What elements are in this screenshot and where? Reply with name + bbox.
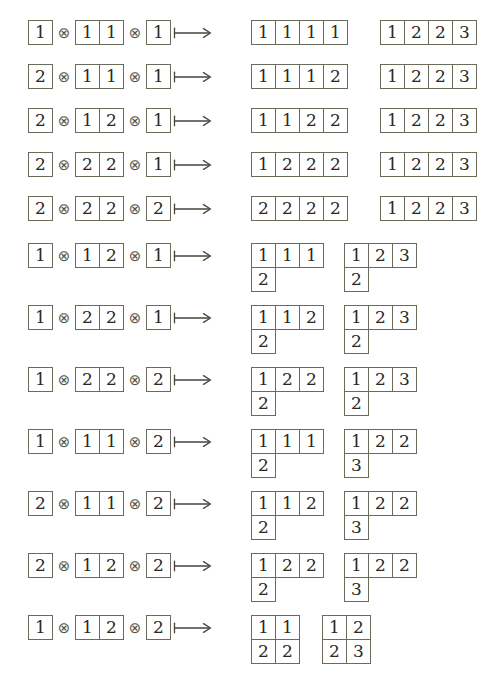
lhs-factor-1-row: 2 [28, 152, 53, 177]
rhs-tableau-1-cell: 1 [251, 429, 276, 454]
lhs-factor-1: 2 [28, 108, 53, 133]
tensor-operator-icon: ⊗ [124, 196, 146, 221]
lhs-factor-2-row: 12 [75, 553, 124, 578]
rhs-tableau-1: 1122 [251, 615, 300, 664]
rhs-tableau-1-cell: 2 [275, 196, 300, 221]
rhs-tableau-2: 1223 [380, 152, 477, 177]
rhs-tableau-1-cell: 2 [299, 367, 324, 392]
tensor-operator-icon: ⊗ [53, 367, 75, 392]
lhs-factor-2-row: 11 [75, 64, 124, 89]
lhs-tensor-expression: 1⊗11⊗1 [28, 20, 215, 45]
tensor-operator-icon: ⊗ [124, 367, 146, 392]
lhs-factor-1-cell: 2 [28, 491, 53, 516]
rhs-tableaux-pair: 11221223 [251, 615, 371, 664]
rhs-tableau-2-cell: 3 [344, 577, 369, 602]
tensor-operator-icon: ⊗ [53, 243, 75, 268]
rhs-tableau-1-cell: 2 [275, 553, 300, 578]
rhs-tableau-1-row: 2 [251, 577, 324, 602]
lhs-factor-1-cell: 2 [28, 553, 53, 578]
lhs-factor-2-cell: 2 [99, 108, 124, 133]
rhs-tableau-1-cell: 2 [323, 152, 348, 177]
rhs-tableau-2-row: 122 [344, 553, 417, 578]
rhs-tableau-1: 1112 [251, 429, 324, 478]
rhs-tableau-2: 1223 [344, 553, 417, 602]
rhs-tableau-2-cell: 3 [344, 515, 369, 540]
rhs-tableau-2-row: 1223 [380, 196, 477, 221]
lhs-factor-2: 12 [75, 553, 124, 578]
rhs-tableau-2-row: 2 [344, 391, 417, 416]
lhs-factor-3: 1 [146, 64, 171, 89]
rhs-tableau-2-cell: 2 [368, 429, 393, 454]
tensor-operator-icon: ⊗ [53, 108, 75, 133]
rhs-tableau-2-row: 23 [322, 639, 371, 664]
lhs-factor-1-row: 1 [28, 305, 53, 330]
rhs-tableau-2-cell: 2 [428, 20, 453, 45]
lhs-factor-2-row: 22 [75, 367, 124, 392]
tensor-operator-icon: ⊗ [124, 553, 146, 578]
rhs-tableau-2-cell: 2 [428, 64, 453, 89]
tensor-operator-icon: ⊗ [124, 108, 146, 133]
tensor-operator-icon: ⊗ [124, 429, 146, 454]
rhs-tableaux-pair: 12221223 [251, 152, 477, 177]
rhs-tableau-1-cell: 2 [251, 639, 276, 664]
rhs-tableau-1-cell: 1 [251, 108, 276, 133]
rhs-tableau-2-cell: 2 [344, 267, 369, 292]
lhs-tensor-expression: 2⊗12⊗2 [28, 553, 215, 578]
rhs-tableau-1: 1122 [251, 305, 324, 354]
rhs-tableau-1-row: 1112 [251, 64, 348, 89]
rhs-tableau-1-row: 2 [251, 329, 324, 354]
rhs-tableau-1-cell: 1 [251, 553, 276, 578]
maps-to-arrow-icon [171, 64, 215, 89]
rhs-tableau-1-row: 111 [251, 243, 324, 268]
lhs-factor-3: 2 [146, 553, 171, 578]
rhs-tableau-2: 1223 [380, 108, 477, 133]
rhs-tableau-2-cell: 3 [392, 243, 417, 268]
rhs-tableau-1: 1122 [251, 108, 348, 133]
lhs-tensor-expression: 1⊗12⊗2 [28, 615, 215, 640]
rhs-tableau-2-cell: 2 [428, 152, 453, 177]
lhs-factor-3-row: 2 [146, 553, 171, 578]
rhs-tableau-2-cell: 1 [344, 553, 369, 578]
maps-to-arrow-icon [171, 553, 215, 578]
lhs-tensor-expression: 1⊗11⊗2 [28, 429, 215, 454]
lhs-factor-2: 22 [75, 196, 124, 221]
rhs-tableau-2-cell: 3 [346, 639, 371, 664]
lhs-factor-3-row: 1 [146, 20, 171, 45]
maps-to-arrow-icon [171, 367, 215, 392]
tensor-operator-icon: ⊗ [124, 243, 146, 268]
lhs-factor-1: 1 [28, 20, 53, 45]
lhs-factor-2: 11 [75, 491, 124, 516]
lhs-factor-2-cell: 1 [99, 429, 124, 454]
maps-to-arrow-icon [171, 152, 215, 177]
rhs-tableau-1-cell: 2 [251, 515, 276, 540]
tableaux-equation-row: 2⊗22⊗112221223 [0, 152, 495, 177]
tensor-operator-icon: ⊗ [53, 615, 75, 640]
lhs-factor-1: 1 [28, 305, 53, 330]
lhs-factor-2-cell: 1 [99, 64, 124, 89]
rhs-tableau-1-row: 122 [251, 367, 324, 392]
lhs-factor-1-row: 1 [28, 615, 53, 640]
lhs-factor-3-row: 2 [146, 429, 171, 454]
rhs-tableau-2-cell: 2 [368, 553, 393, 578]
lhs-factor-3-cell: 2 [146, 196, 171, 221]
lhs-factor-2-cell: 2 [99, 243, 124, 268]
lhs-factor-3-cell: 2 [146, 367, 171, 392]
rhs-tableau-2-cell: 2 [428, 108, 453, 133]
lhs-factor-1-row: 2 [28, 108, 53, 133]
lhs-factor-2-cell: 1 [75, 553, 100, 578]
lhs-factor-1: 2 [28, 553, 53, 578]
maps-to-arrow-icon [171, 20, 215, 45]
maps-to-arrow-icon [171, 305, 215, 330]
rhs-tableau-2-row: 123 [344, 305, 417, 330]
rhs-tableau-1-cell: 2 [251, 453, 276, 478]
rhs-tableaux-pair: 12221223 [251, 553, 417, 602]
lhs-factor-1-cell: 2 [28, 64, 53, 89]
rhs-tableau-2-cell: 2 [368, 243, 393, 268]
rhs-tableau-2-cell: 2 [404, 108, 429, 133]
rhs-tableau-2-cell: 1 [322, 615, 347, 640]
rhs-tableau-2: 1223 [380, 64, 477, 89]
tensor-operator-icon: ⊗ [53, 152, 75, 177]
lhs-factor-3-cell: 1 [146, 152, 171, 177]
lhs-factor-2-row: 22 [75, 196, 124, 221]
tableaux-equation-row: 2⊗11⊗111121223 [0, 64, 495, 89]
